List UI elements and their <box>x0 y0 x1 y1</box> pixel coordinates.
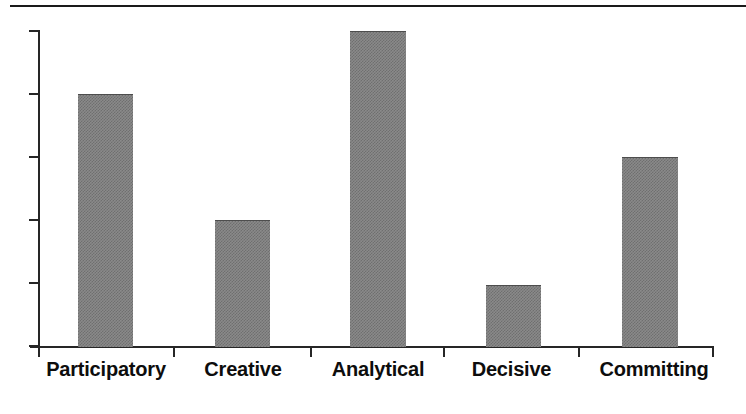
y-axis-line <box>38 30 40 348</box>
x-axis-label-decisive: Decisive <box>444 358 579 381</box>
x-axis-tick-5 <box>712 347 714 357</box>
x-axis-tick-2 <box>310 347 312 357</box>
bar-creative <box>215 220 270 347</box>
bar-participatory <box>78 94 133 347</box>
x-axis-label-committing: Committing <box>574 358 734 381</box>
bar-analytical <box>350 31 406 347</box>
plot-area: Participatory Creative Analytical Decisi… <box>0 0 746 414</box>
y-axis-tick-40 <box>29 219 40 221</box>
x-axis-tick-1 <box>173 347 175 357</box>
x-axis-label-participatory: Participatory <box>26 358 186 381</box>
y-axis-tick-20 <box>29 282 40 284</box>
x-axis-tick-4 <box>578 347 580 357</box>
bar-chart-figure: Participatory Creative Analytical Decisi… <box>0 0 746 414</box>
y-axis-tick-60 <box>29 156 40 158</box>
x-axis-label-analytical: Analytical <box>308 358 448 381</box>
bar-committing <box>622 157 678 347</box>
x-axis-label-creative: Creative <box>173 358 313 381</box>
x-axis-tick-3 <box>443 347 445 357</box>
y-axis-tick-100 <box>29 30 40 32</box>
bar-decisive <box>486 285 541 347</box>
y-axis-tick-80 <box>29 93 40 95</box>
x-axis-tick-0 <box>38 347 40 357</box>
